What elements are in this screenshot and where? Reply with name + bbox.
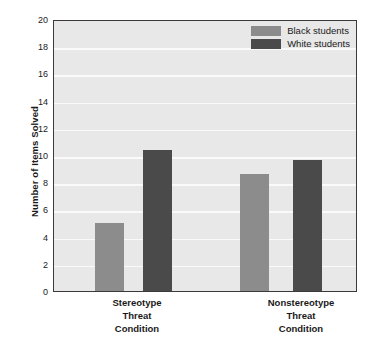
legend-label: White students — [287, 39, 350, 49]
plot-area: Black studentsWhite students — [53, 20, 357, 292]
x-axis-category-line: Nonstereotype — [241, 297, 361, 310]
bar — [293, 160, 322, 291]
x-axis-category-line: Threat — [77, 310, 197, 323]
y-axis-tick-label: 8 — [22, 179, 48, 188]
y-axis-tick-label: 18 — [22, 43, 48, 52]
x-axis-category-line: Threat — [241, 310, 361, 323]
legend-item: White students — [251, 39, 350, 49]
y-axis-tick-label: 14 — [22, 97, 48, 106]
x-axis-category-label: StereotypeThreatCondition — [77, 297, 197, 335]
legend: Black studentsWhite students — [251, 26, 350, 49]
y-axis-tick-label: 2 — [22, 260, 48, 269]
y-axis-tick-label: 12 — [22, 124, 48, 133]
y-axis-tick-labels: 02468101214161820 — [22, 20, 48, 292]
x-axis-category-labels: StereotypeThreatConditionNonstereotypeTh… — [53, 297, 357, 343]
bar — [143, 150, 172, 291]
bar — [95, 223, 124, 291]
y-axis-tick-label: 10 — [22, 152, 48, 161]
bar-chart: Number of Items Solved 02468101214161820… — [0, 0, 374, 346]
bar — [240, 174, 269, 291]
y-axis-tick-label: 0 — [22, 288, 48, 297]
x-axis-category-line: Condition — [241, 323, 361, 336]
x-axis-category-label: NonstereotypeThreatCondition — [241, 297, 361, 335]
legend-swatch — [251, 39, 281, 49]
y-axis-tick-label: 6 — [22, 206, 48, 215]
x-axis-category-line: Stereotype — [77, 297, 197, 310]
y-axis-tick-label: 4 — [22, 233, 48, 242]
legend-swatch — [251, 26, 281, 36]
y-axis-tick-label: 20 — [22, 16, 48, 25]
legend-label: Black students — [287, 26, 349, 36]
bars-layer — [54, 21, 356, 291]
legend-item: Black students — [251, 26, 350, 36]
x-axis-category-line: Condition — [77, 323, 197, 336]
y-axis-tick-label: 16 — [22, 70, 48, 79]
